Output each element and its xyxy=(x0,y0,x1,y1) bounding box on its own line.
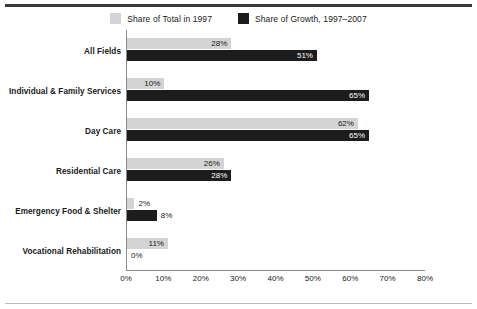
bar-share-of-growth: 28% xyxy=(127,170,231,181)
category-label: Day Care xyxy=(85,127,121,136)
bar-value-label: 8% xyxy=(161,212,173,220)
bar-rows: All Fields28%51%Individual & Family Serv… xyxy=(127,30,425,270)
bar-track: 65% xyxy=(127,130,425,141)
bar-track: 28% xyxy=(127,170,425,181)
x-tick-label: 50% xyxy=(305,274,321,283)
bar-value-label: 62% xyxy=(338,120,354,128)
bar-share-of-total: 2% xyxy=(127,198,134,209)
bar-row: Emergency Food & Shelter2%8% xyxy=(127,191,425,231)
legend-item-share-of-growth: Share of Growth, 1997–2007 xyxy=(238,13,367,24)
category-label: Residential Care xyxy=(56,167,121,176)
bar-value-label: 28% xyxy=(211,40,227,48)
bar-row: Vocational Rehabilitation11%0% xyxy=(127,231,425,271)
bar-value-label: 11% xyxy=(149,240,164,248)
bar-row: All Fields28%51% xyxy=(127,31,425,71)
bar-value-label: 2% xyxy=(138,200,150,208)
bar-share-of-growth: 65% xyxy=(127,90,369,101)
bar-track: 2% xyxy=(127,198,425,209)
bar-value-label: 51% xyxy=(297,52,313,60)
bottom-rule xyxy=(5,303,472,304)
x-tick-label: 10% xyxy=(155,274,171,283)
bar-value-label: 28% xyxy=(211,172,227,180)
bar-share-of-total: 10% xyxy=(127,78,164,89)
bar-value-label: 26% xyxy=(204,160,220,168)
top-rule xyxy=(5,4,472,7)
legend-item-share-of-total: Share of Total in 1997 xyxy=(110,13,212,24)
chart-legend: Share of Total in 1997 Share of Growth, … xyxy=(0,13,477,24)
bar-row: Day Care62%65% xyxy=(127,111,425,151)
legend-label-share-of-total: Share of Total in 1997 xyxy=(127,14,212,24)
category-label: Emergency Food & Shelter xyxy=(15,207,121,216)
bar-track: 62% xyxy=(127,118,425,129)
category-label: Individual & Family Services xyxy=(9,87,121,96)
bar-track: 65% xyxy=(127,90,425,101)
bar-share-of-growth: 8% xyxy=(127,210,157,221)
bar-track: 51% xyxy=(127,50,425,61)
x-tick-label: 20% xyxy=(193,274,209,283)
bar-track: 28% xyxy=(127,38,425,49)
bar-share-of-total: 26% xyxy=(127,158,224,169)
bar-track: 8% xyxy=(127,210,425,221)
bar-share-of-growth: 65% xyxy=(127,130,369,141)
x-tick-label: 30% xyxy=(230,274,246,283)
bar-share-of-growth: 51% xyxy=(127,50,317,61)
bar-share-of-total: 62% xyxy=(127,118,358,129)
x-axis-ticks: 0%10%20%30%40%50%60%70%80% xyxy=(126,274,425,288)
bar-row: Residential Care26%28% xyxy=(127,151,425,191)
bar-track: 0% xyxy=(127,250,425,261)
bar-share-of-total: 28% xyxy=(127,38,231,49)
bar-value-label: 10% xyxy=(144,80,160,88)
x-tick-label: 80% xyxy=(417,274,433,283)
bar-track: 10% xyxy=(127,78,425,89)
category-label: All Fields xyxy=(84,47,121,56)
legend-swatch-dark xyxy=(238,13,249,24)
bar-row: Individual & Family Services10%65% xyxy=(127,71,425,111)
plot-area: All Fields28%51%Individual & Family Serv… xyxy=(126,30,425,271)
bar-value-label: 65% xyxy=(349,132,365,140)
x-tick-label: 70% xyxy=(380,274,396,283)
bar-share-of-total: 11% xyxy=(127,238,168,249)
x-tick-label: 60% xyxy=(342,274,358,283)
legend-swatch-light xyxy=(110,13,121,24)
bar-track: 11% xyxy=(127,238,425,249)
bar-value-label: 65% xyxy=(349,92,365,100)
bar-track: 26% xyxy=(127,158,425,169)
bar-value-label: 0% xyxy=(131,252,143,260)
category-label: Vocational Rehabilitation xyxy=(23,247,121,256)
x-tick-label: 0% xyxy=(120,274,132,283)
chart-figure: Share of Total in 1997 Share of Growth, … xyxy=(0,0,477,309)
legend-label-share-of-growth: Share of Growth, 1997–2007 xyxy=(255,14,367,24)
x-tick-label: 40% xyxy=(267,274,283,283)
